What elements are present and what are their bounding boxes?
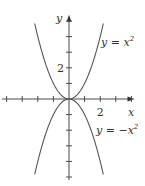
series-label-superscript: 2 — [129, 35, 135, 43]
series-label-main: y = −x — [95, 124, 135, 137]
series-label-superscript: 2 — [133, 123, 139, 131]
series-label-x-squared: y = x2 — [100, 35, 135, 49]
y-axis-label: y — [55, 12, 63, 25]
x-tick-label-2: 2 — [97, 106, 104, 119]
parabola-chart: x y 2 2 y = x2 y = −x2 — [0, 0, 145, 186]
series-label-neg-x-squared: y = −x2 — [95, 123, 139, 137]
x-axis-label: x — [128, 106, 135, 119]
series-label-main: y = x — [100, 36, 130, 49]
y-tick-label-2: 2 — [57, 62, 64, 75]
